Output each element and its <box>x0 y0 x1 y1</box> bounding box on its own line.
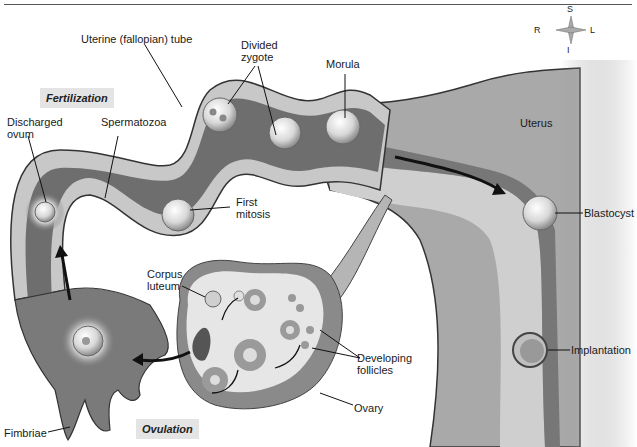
stage-label-fertilization: Fertilization <box>40 88 114 108</box>
label-morula: Morula <box>326 58 360 70</box>
anatomy-illustration <box>0 0 637 447</box>
blastocyst-cell <box>523 196 557 230</box>
label-fimbriae: Fimbriae <box>4 427 47 439</box>
divided-zygote-cell-1 <box>203 98 237 132</box>
compass-inferior: I <box>567 45 570 55</box>
label-corpus-luteum: Corpus luteum <box>147 268 182 292</box>
label-implantation: Implantation <box>571 344 631 356</box>
orientation-compass <box>556 16 586 44</box>
label-divided-zygote: Divided zygote <box>241 39 278 63</box>
ovary <box>177 260 342 409</box>
label-spermatozoa: Spermatozoa <box>101 116 166 128</box>
stage-label-ovulation: Ovulation <box>136 419 199 439</box>
ovulated-ovum <box>60 313 116 369</box>
label-blastocyst: Blastocyst <box>584 207 634 219</box>
label-uterus: Uterus <box>520 117 552 129</box>
morula-cell <box>326 110 360 144</box>
label-first-mitosis: First mitosis <box>236 196 270 220</box>
label-ovary: Ovary <box>354 402 383 414</box>
compass-left: L <box>590 25 595 35</box>
implantation-site <box>513 333 547 367</box>
first-mitosis-cell <box>162 199 194 231</box>
label-developing-follicles: Developing follicles <box>357 352 412 376</box>
compass-superior: S <box>567 4 573 14</box>
divided-zygote-cell-2 <box>269 117 301 149</box>
label-uterine-tube: Uterine (fallopian) tube <box>81 33 192 45</box>
label-discharged-ovum: Discharged ovum <box>7 116 63 140</box>
compass-right: R <box>534 25 541 35</box>
fertilization-diagram: S I R L Fertilization Ovulation Uterine … <box>0 0 637 447</box>
